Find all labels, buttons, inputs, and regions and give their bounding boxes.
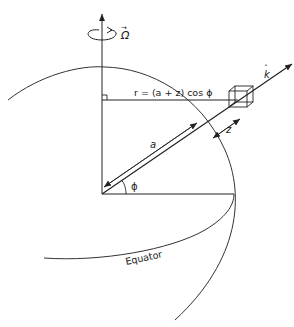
z-label: z <box>225 124 232 135</box>
radius-formula-label: r = (a + z) cos ϕ <box>134 87 212 98</box>
omega-vector-mark: → <box>121 24 127 32</box>
equator-curve <box>44 194 234 259</box>
k-hat-vector <box>102 64 292 194</box>
fluid-parcel-cube <box>229 86 253 107</box>
a-label: a <box>150 139 156 150</box>
phi-label: ϕ <box>131 181 138 192</box>
sphere-outline-arc <box>8 67 235 320</box>
k-hat-mark: ˆ <box>264 64 268 74</box>
right-angle-marker <box>102 95 107 100</box>
phi-angle-arc <box>121 180 126 194</box>
equator-label: Equator <box>124 248 163 267</box>
earth-coordinate-diagram: Ω → r = (a + z) cos ϕ a z k ˆ ϕ Equator <box>0 0 294 327</box>
